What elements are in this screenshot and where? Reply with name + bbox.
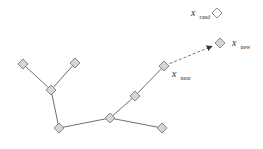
tree-diagram: x rand x new x near <box>0 0 263 149</box>
extension-arrow <box>170 46 212 63</box>
edge-d-e <box>59 118 110 128</box>
edge-a-c <box>23 64 51 90</box>
svg-text:x new: x new <box>231 32 251 50</box>
edge-e-f <box>110 118 162 128</box>
node-x-rand-diamond-icon <box>212 8 222 18</box>
label-x-new-sub: new <box>240 44 251 50</box>
edge-e-g <box>110 96 135 118</box>
edge-c-d <box>51 90 59 128</box>
label-x-new-main: x <box>231 37 237 48</box>
label-x-near-main: x <box>171 68 177 79</box>
node-x-new-diamond-icon <box>215 38 225 48</box>
node-f-diamond-icon <box>157 123 167 133</box>
svg-text:x near: x near <box>171 63 191 81</box>
edge-g-x_near <box>135 66 164 96</box>
label-x-near: x near <box>171 63 191 81</box>
tree-nodes <box>18 8 225 133</box>
label-x-rand: x rand <box>190 2 210 20</box>
node-d-diamond-icon <box>54 123 64 133</box>
edge-b-c <box>51 63 75 90</box>
label-x-rand-sub: rand <box>199 14 210 20</box>
tree-edges <box>23 63 164 128</box>
label-x-rand-main: x <box>190 7 196 18</box>
svg-text:x rand: x rand <box>190 2 210 20</box>
label-x-near-sub: near <box>180 75 190 81</box>
label-x-new: x new <box>231 32 251 50</box>
